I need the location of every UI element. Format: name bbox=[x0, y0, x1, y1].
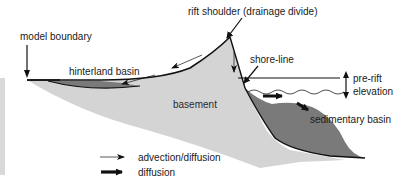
shore-line-label: shore-line bbox=[250, 54, 294, 65]
side-strip bbox=[0, 78, 5, 175]
rift-basin-diagram: model boundary rift shoulder (drainage d… bbox=[0, 0, 410, 189]
water-surface-wave bbox=[248, 90, 344, 94]
elevation-arrow-up-icon bbox=[343, 71, 349, 78]
legend-diffusion-label: diffusion bbox=[138, 167, 175, 178]
model-boundary-label: model boundary bbox=[20, 31, 92, 42]
model-boundary-arrowhead-icon bbox=[24, 70, 30, 78]
sedimentary-basin-label: sedimentary basin bbox=[310, 114, 391, 125]
legend-advection-diffusion-label: advection/diffusion bbox=[138, 152, 221, 163]
pre-rift-label: pre-rift bbox=[353, 73, 382, 84]
legend: advection/diffusion diffusion bbox=[100, 152, 221, 178]
rift-shoulder-pointer bbox=[227, 18, 242, 38]
hinterland-basin-label: hinterland basin bbox=[69, 66, 140, 77]
elevation-arrow-down-icon bbox=[343, 92, 349, 99]
rift-shoulder-label: rift shoulder (drainage divide) bbox=[188, 6, 318, 17]
elevation-label: elevation bbox=[353, 86, 393, 97]
basement-label: basement bbox=[173, 99, 217, 110]
shore-line-pointer bbox=[244, 66, 258, 83]
